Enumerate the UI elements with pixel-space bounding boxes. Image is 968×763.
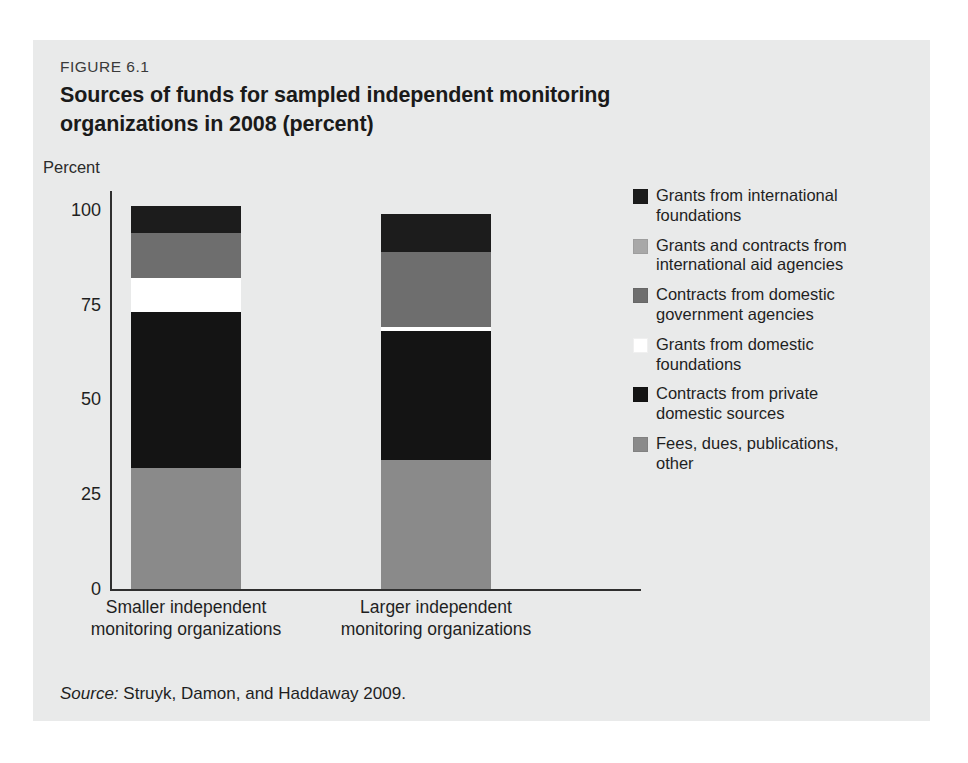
legend-label: Grants from domesticfoundations (656, 335, 814, 375)
y-axis-tick-75: 75 (55, 294, 101, 315)
source-label: Source: (60, 684, 119, 703)
legend-swatch-icon (633, 239, 648, 254)
bar-segment[interactable] (381, 214, 491, 252)
legend-item-5[interactable]: Fees, dues, publications,other (633, 434, 919, 474)
legend-label-line: Contracts from private (656, 384, 818, 404)
legend-swatch-icon (633, 338, 648, 353)
legend-label-line: foundations (656, 355, 814, 375)
x-axis-label-smaller: Smaller independentmonitoring organizati… (71, 596, 301, 641)
legend-label-line: other (656, 454, 839, 474)
x-axis-label-larger: Larger independentmonitoring organizatio… (321, 596, 551, 641)
bar-segment[interactable] (381, 460, 491, 589)
chart-legend: Grants from internationalfoundationsGran… (633, 186, 919, 484)
legend-swatch-icon (633, 189, 648, 204)
bar-segment[interactable] (381, 252, 491, 328)
legend-item-4[interactable]: Contracts from privatedomestic sources (633, 384, 919, 424)
legend-item-3[interactable]: Grants from domesticfoundations (633, 335, 919, 375)
y-axis-tick-100: 100 (55, 199, 101, 220)
figure-panel: FIGURE 6.1 Sources of funds for sampled … (33, 40, 930, 721)
x-axis-label-line: Larger independent (321, 596, 551, 618)
legend-label: Grants and contracts frominternational a… (656, 236, 847, 276)
legend-label-line: Grants from domestic (656, 335, 814, 355)
bar-segment[interactable] (131, 468, 241, 589)
bar-segment[interactable] (131, 312, 241, 467)
legend-label-line: Grants from international (656, 186, 838, 206)
y-axis-line (110, 191, 112, 591)
legend-label-line: Grants and contracts from (656, 236, 847, 256)
legend-label: Contracts from domesticgovernment agenci… (656, 285, 835, 325)
bar-segment[interactable] (381, 331, 491, 460)
legend-label-line: Fees, dues, publications, (656, 434, 839, 454)
source-citation: Struyk, Damon, and Haddaway 2009. (119, 684, 406, 703)
legend-label: Fees, dues, publications,other (656, 434, 839, 474)
legend-swatch-icon (633, 387, 648, 402)
legend-label: Contracts from privatedomestic sources (656, 384, 818, 424)
bar-smaller[interactable] (131, 206, 241, 589)
legend-item-2[interactable]: Contracts from domesticgovernment agenci… (633, 285, 919, 325)
legend-swatch-icon (633, 288, 648, 303)
legend-label-line: Contracts from domestic (656, 285, 835, 305)
y-axis-tick-25: 25 (55, 484, 101, 505)
bar-segment[interactable] (131, 206, 241, 233)
x-axis-line (110, 589, 641, 591)
legend-item-0[interactable]: Grants from internationalfoundations (633, 186, 919, 226)
legend-label: Grants from internationalfoundations (656, 186, 838, 226)
x-axis-label-line: Smaller independent (71, 596, 301, 618)
bar-larger[interactable] (381, 214, 491, 589)
legend-item-1[interactable]: Grants and contracts frominternational a… (633, 236, 919, 276)
source-note: Source: Struyk, Damon, and Haddaway 2009… (60, 684, 406, 704)
legend-label-line: international aid agencies (656, 255, 847, 275)
x-axis-label-line: monitoring organizations (321, 618, 551, 640)
bar-segment[interactable] (131, 278, 241, 312)
chart-plot-area: Percent 0255075100 Smaller independentmo… (33, 40, 930, 721)
legend-label-line: domestic sources (656, 404, 818, 424)
y-axis-title: Percent (43, 158, 100, 177)
legend-swatch-icon (633, 437, 648, 452)
legend-label-line: government agencies (656, 305, 835, 325)
y-axis-tick-50: 50 (55, 389, 101, 410)
bar-segment[interactable] (131, 233, 241, 278)
x-axis-label-line: monitoring organizations (71, 618, 301, 640)
legend-label-line: foundations (656, 206, 838, 226)
